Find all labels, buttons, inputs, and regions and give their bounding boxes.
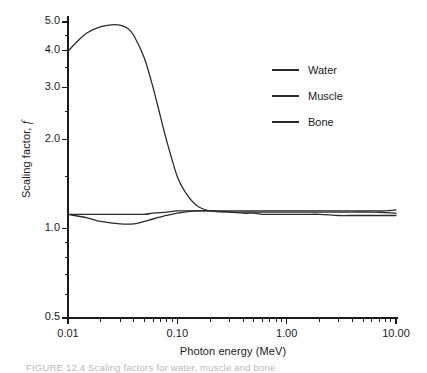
- legend-line-icon: [272, 69, 299, 71]
- y-tick-label: 1.0: [14, 221, 60, 233]
- y-tick-label: 0.5: [14, 310, 60, 322]
- legend-item-bone[interactable]: Bone: [272, 109, 343, 135]
- legend-item-water[interactable]: Water: [272, 57, 343, 83]
- y-tick-label: 4.0: [14, 43, 60, 55]
- x-tick-label: 1.00: [257, 327, 317, 339]
- x-tick-label: 0.01: [38, 327, 98, 339]
- x-tick-label: 10.00: [366, 327, 426, 339]
- legend-label-bone: Bone: [308, 116, 334, 128]
- data-curves: [68, 25, 396, 224]
- legend-item-muscle[interactable]: Muscle: [272, 83, 343, 109]
- x-axis-title: Photon energy (MeV): [68, 345, 398, 357]
- legend-label-water: Water: [308, 64, 337, 76]
- legend-line-icon: [272, 95, 299, 97]
- figure-caption: FIGURE 12.4 Scaling factors for water, m…: [26, 362, 275, 373]
- y-axis-symbol: f: [19, 121, 33, 124]
- y-tick-label: 2.0: [14, 132, 60, 144]
- axes: [62, 16, 398, 324]
- y-tick-label: 5.0: [14, 14, 60, 26]
- legend-label-muscle: Muscle: [308, 90, 343, 102]
- curve-bone: [68, 25, 396, 213]
- y-tick-label: 3.0: [14, 80, 60, 92]
- x-tick-label: 0.10: [147, 327, 207, 339]
- chart-legend: Water Muscle Bone: [272, 57, 343, 135]
- legend-line-icon: [272, 121, 299, 123]
